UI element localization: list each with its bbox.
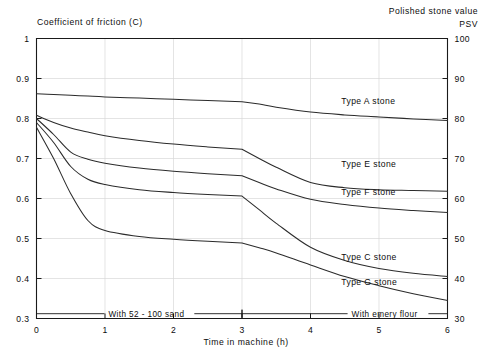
x-axis-tick-label: 2 xyxy=(171,325,176,335)
y-axis-tick-label-left: 0.6 xyxy=(16,194,29,204)
y-axis-tick-label-right: 60 xyxy=(455,194,465,204)
x-axis-tick-label: 4 xyxy=(308,325,313,335)
y-axis-tick-label-right: 40 xyxy=(455,274,465,284)
chart-canvas: 0.30.40.50.60.70.80.91 30405060708090100… xyxy=(0,0,493,351)
annotations-group: With 52 - 100 sandWith emery flour xyxy=(37,310,448,319)
y-axis-tick-label-right: 70 xyxy=(455,154,465,164)
y-axis-tick-label-left: 0.4 xyxy=(16,274,29,284)
y-axis-tick-label-left: 0.7 xyxy=(16,154,29,164)
series-label: Type F stone xyxy=(341,187,395,197)
x-axis-tick-label: 6 xyxy=(445,325,450,335)
x-axis-tick-label: 1 xyxy=(102,325,107,335)
y-axis-left: 0.30.40.50.60.70.80.91 xyxy=(16,34,41,324)
series-label: Type G stone xyxy=(341,277,397,287)
series-label: Type C stone xyxy=(341,252,396,262)
right-axis-title-line1: Polished stone value xyxy=(389,6,478,16)
x-axis-tick-label: 3 xyxy=(239,325,244,335)
y-axis-tick-label-left: 0.3 xyxy=(16,314,29,324)
y-axis-tick-label-right: 80 xyxy=(455,114,465,124)
y-axis-tick-label-right: 30 xyxy=(455,314,465,324)
y-axis-tick-label-left: 0.8 xyxy=(16,114,29,124)
y-axis-right: 30405060708090100 xyxy=(443,34,471,324)
series-labels-group: Type A stoneType E stoneType F stoneType… xyxy=(341,96,397,287)
x-axis-tick-label: 0 xyxy=(34,325,39,335)
y-axis-tick-label-right: 100 xyxy=(455,34,471,44)
x-axis-tick-label: 5 xyxy=(376,325,381,335)
series-label: Type A stone xyxy=(341,96,395,106)
annotation-label: With 52 - 100 sand xyxy=(108,310,184,319)
y-axis-tick-label-right: 50 xyxy=(455,234,465,244)
chart-title: Coefficient of friction (C) xyxy=(37,17,143,27)
right-axis-title-line2: PSV xyxy=(459,19,478,29)
y-axis-tick-label-left: 0.5 xyxy=(16,234,29,244)
annotation-label: With emery flour xyxy=(352,310,418,319)
y-axis-tick-label-right: 90 xyxy=(455,74,465,84)
friction-psv-chart: 0.30.40.50.60.70.80.91 30405060708090100… xyxy=(0,0,493,351)
y-axis-tick-label-left: 0.9 xyxy=(16,74,29,84)
x-axis-title: Time in machine (h) xyxy=(203,337,288,347)
series-label: Type E stone xyxy=(341,159,396,169)
y-axis-tick-label-left: 1 xyxy=(24,34,29,44)
